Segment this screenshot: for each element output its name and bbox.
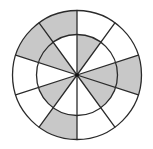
ring-sector-diagram: Shaded circle divided into two concentri… <box>0 0 153 149</box>
center-point <box>75 73 79 77</box>
